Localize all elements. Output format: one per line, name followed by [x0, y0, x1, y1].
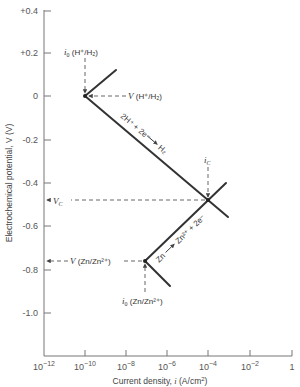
axes [44, 10, 292, 356]
y-tick-label: -0.8 [22, 265, 38, 275]
x-tick-label: 10−8 [117, 360, 135, 372]
polarization-diagram: +0.4 +0.2 0 -0.2 -0.4 -0.6 -0.8 -1.0 10−… [0, 0, 300, 387]
v-h-label: V (H⁺/H₂) [128, 91, 162, 101]
x-ticks: 10−12 10−10 10−8 10−6 10−4 10−2 1 [33, 350, 294, 372]
zinc-reaction-label: Zn Zn²⁺ + 2e⁻ [154, 213, 207, 265]
x-tick-label: 10−4 [199, 360, 217, 372]
y-tick-label: -0.2 [22, 135, 38, 145]
svg-text:2H⁺ + 2e⁻: 2H⁺ + 2e⁻ [119, 112, 153, 142]
y-tick-label: -0.6 [22, 221, 38, 231]
hydrogen-reaction-label: 2H⁺ + 2e⁻ H₂ [119, 112, 169, 156]
corrosion-point [206, 198, 210, 202]
y-tick-label: +0.4 [20, 6, 38, 16]
ic-label: iC [204, 155, 212, 166]
hydrogen-equilibrium-point [83, 94, 87, 98]
zinc-oxidation-line [145, 183, 226, 261]
x-tick-label: 10−2 [241, 360, 259, 372]
i0-zn-label: i0 (Zn/Zn²⁺) [122, 296, 163, 307]
x-tick-label: 10−6 [158, 360, 176, 372]
y-tick-label: -1.0 [22, 308, 38, 318]
y-tick-label: -0.4 [22, 178, 38, 188]
y-tick-label: 0 [33, 91, 38, 101]
svg-text:H₂: H₂ [156, 143, 169, 156]
svg-text:Zn: Zn [154, 251, 167, 264]
y-ticks: +0.4 +0.2 0 -0.2 -0.4 -0.6 -0.8 -1.0 [20, 6, 51, 318]
i0-h-label: i0 (H⁺/H₂) [64, 47, 98, 58]
zinc-reduction-branch [145, 261, 170, 286]
y-axis-title: Electrochemical potential, V (V) [4, 124, 14, 243]
x-axis-title: Current density, i (A/cm2) [113, 376, 208, 386]
v-zn-label: V (Zn/Zn²⁺) [70, 256, 111, 266]
zinc-equilibrium-point [143, 259, 147, 263]
x-tick-label: 10−12 [33, 360, 55, 372]
x-tick-label: 1 [289, 362, 294, 372]
vc-label: VC [53, 196, 64, 207]
curves [83, 70, 228, 286]
hydrogen-oxidation-branch [85, 70, 116, 96]
y-tick-label: +0.2 [20, 48, 38, 58]
x-tick-label: 10−10 [74, 360, 96, 372]
